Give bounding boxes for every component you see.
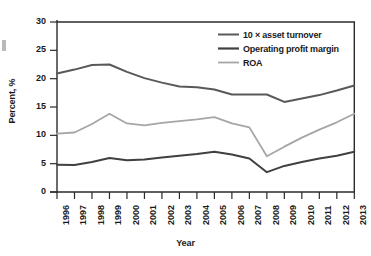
x-tick-label-2009: 2009 xyxy=(288,205,298,225)
y-tick-label-5: 5 xyxy=(22,158,46,168)
x-tick-label-1999: 1999 xyxy=(113,205,123,225)
data-series-layer xyxy=(57,65,354,173)
x-tick-label-1998: 1998 xyxy=(96,205,106,225)
x-tick-label-2000: 2000 xyxy=(131,205,141,225)
x-axis-ticks xyxy=(57,192,354,199)
x-tick-label-2001: 2001 xyxy=(148,205,158,225)
x-axis-title: Year xyxy=(0,238,371,248)
x-tick-label-2005: 2005 xyxy=(218,205,228,225)
x-tick-label-2007: 2007 xyxy=(253,205,263,225)
legend-label-operating-profit-margin: Operating profit margin xyxy=(243,44,339,54)
x-tick-label-2011: 2011 xyxy=(323,205,333,225)
x-tick-label-2008: 2008 xyxy=(271,205,281,225)
x-tick-label-2003: 2003 xyxy=(183,205,193,225)
series-line-operating-profit-margin xyxy=(57,152,354,172)
x-tick-label-2002: 2002 xyxy=(166,205,176,225)
series-line-roa xyxy=(57,114,354,157)
x-tick-label-1997: 1997 xyxy=(78,205,88,225)
y-tick-label-20: 20 xyxy=(22,73,46,83)
x-tick-label-2012: 2012 xyxy=(341,205,351,225)
legend-swatches xyxy=(218,35,239,63)
chart-figure: Percent, % Year 302520151050 19961997199… xyxy=(0,0,371,256)
x-tick-label-2010: 2010 xyxy=(306,205,316,225)
y-tick-label-25: 25 xyxy=(22,44,46,54)
x-tick-label-2013: 2013 xyxy=(358,205,368,225)
y-axis-ticks xyxy=(50,22,57,192)
y-tick-label-10: 10 xyxy=(22,129,46,139)
y-tick-label-0: 0 xyxy=(22,186,46,196)
x-tick-label-2004: 2004 xyxy=(201,205,211,225)
x-tick-label-2006: 2006 xyxy=(236,205,246,225)
x-tick-label-1996: 1996 xyxy=(61,205,71,225)
y-tick-label-30: 30 xyxy=(22,16,46,26)
y-axis-title: Percent, % xyxy=(7,68,17,134)
series-line-10-asset-turnover xyxy=(57,65,354,102)
y-tick-label-15: 15 xyxy=(22,101,46,111)
legend-label-roa: ROA xyxy=(243,58,262,68)
legend-label-asset-turnover: 10 × asset turnover xyxy=(243,30,322,40)
